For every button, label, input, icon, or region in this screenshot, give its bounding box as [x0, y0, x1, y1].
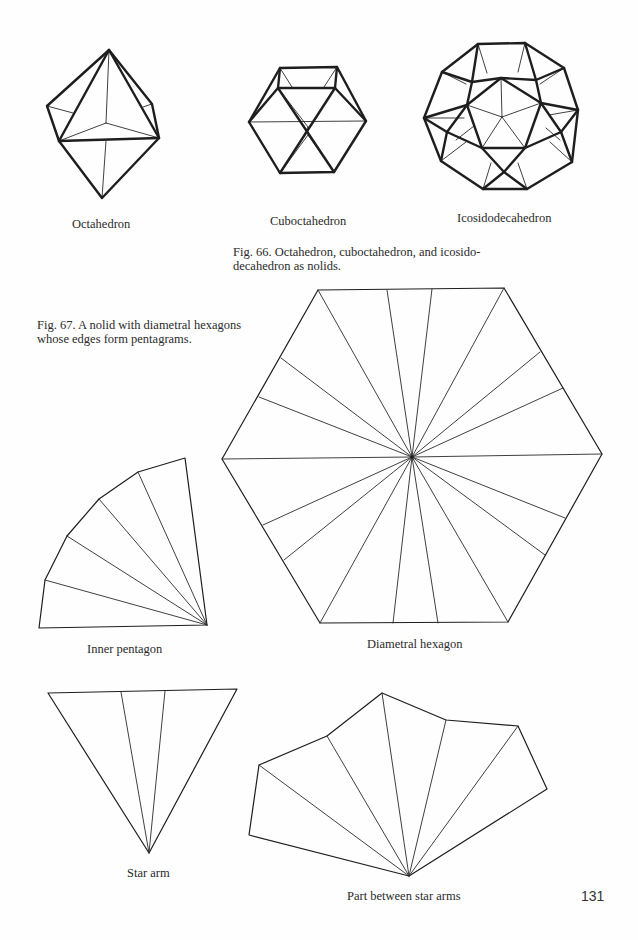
star-arm-drawing	[48, 689, 237, 853]
star-arm-label: Star arm	[127, 866, 170, 880]
fig66-caption-line1: Fig. 66. Octahedron, cuboctahedron, and …	[233, 245, 513, 259]
octahedron-label: Octahedron	[72, 217, 130, 231]
part-between-star-arms-drawing	[249, 693, 547, 876]
fig67-caption-line2: whose edges form pentagrams.	[37, 332, 277, 346]
icosidodecahedron-drawing	[424, 43, 578, 189]
fig67-caption-line1: Fig. 67. A nolid with diametral hexagons	[37, 318, 277, 332]
diametral-hexagon-label: Diametral hexagon	[367, 637, 462, 651]
inner-pentagon-drawing	[39, 458, 207, 628]
cuboctahedron-drawing	[249, 67, 366, 173]
fig67-caption: Fig. 67. A nolid with diametral hexagons…	[37, 318, 277, 346]
inner-pentagon-label: Inner pentagon	[87, 642, 162, 656]
diametral-hexagon-drawing	[222, 288, 602, 623]
icosidodecahedron-label: Icosidodecahedron	[457, 211, 551, 225]
book-page: Octahedron Cuboctahedron Icosidodecahedr…	[0, 0, 638, 940]
cuboctahedron-label: Cuboctahedron	[270, 214, 346, 228]
fig66-caption: Fig. 66. Octahedron, cuboctahedron, and …	[233, 245, 513, 273]
part-between-star-arms-label: Part between star arms	[347, 889, 461, 903]
octahedron-drawing	[47, 50, 159, 198]
page-number: 131	[581, 888, 604, 904]
fig66-caption-line2: decahedron as nolids.	[233, 259, 513, 273]
figure-artwork	[0, 0, 638, 940]
